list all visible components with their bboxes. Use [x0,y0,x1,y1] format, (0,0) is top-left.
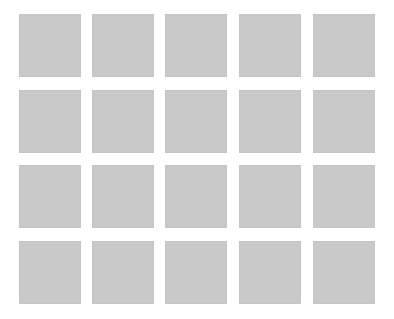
grid-tile-r2-c1 [19,90,81,153]
grid-tile-r2-c5 [313,90,375,153]
grid-tile-r4-c2 [92,241,154,304]
grid-tile-r1-c3 [165,14,227,77]
grid-tile-r4-c1 [19,241,81,304]
grid-tile-r3-c1 [19,165,81,228]
grid-tile-r2-c4 [239,90,301,153]
grid-tile-r3-c2 [92,165,154,228]
grid-tile-r1-c5 [313,14,375,77]
grid-tile-r1-c1 [19,14,81,77]
grid-tile-r4-c4 [239,241,301,304]
grid-tile-r3-c3 [165,165,227,228]
grid-tile-r2-c2 [92,90,154,153]
grid-tile-r3-c5 [313,165,375,228]
tile-grid [0,0,394,319]
grid-tile-r1-c2 [92,14,154,77]
grid-tile-r4-c5 [313,241,375,304]
grid-tile-r4-c3 [165,241,227,304]
grid-tile-r3-c4 [239,165,301,228]
grid-tile-r1-c4 [239,14,301,77]
grid-tile-r2-c3 [165,90,227,153]
